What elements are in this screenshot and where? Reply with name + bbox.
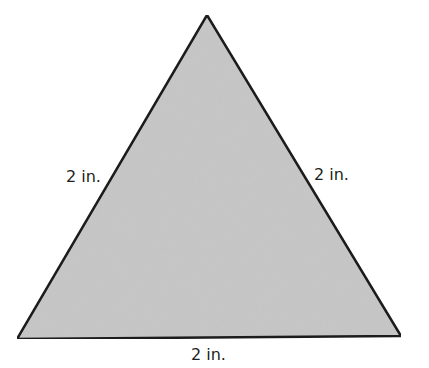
bottom-side-label: 2 in. — [191, 345, 226, 364]
left-side-label: 2 in. — [66, 167, 101, 186]
right-side-label: 2 in. — [314, 165, 349, 184]
triangle-diagram: 2 in. 2 in. 2 in. — [0, 0, 429, 368]
